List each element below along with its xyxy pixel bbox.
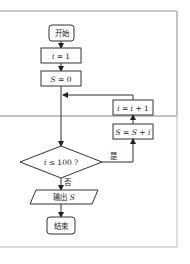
end-label: 结束 bbox=[54, 221, 69, 231]
update-i-node: i = i + 1 bbox=[113, 100, 153, 115]
no-label: 否 bbox=[64, 178, 72, 187]
condition-val: 100 ? bbox=[57, 158, 78, 167]
end-node: 结束 bbox=[47, 217, 75, 234]
init-s-op: = bbox=[56, 75, 67, 84]
update-s-node: S = S + i bbox=[113, 124, 153, 139]
update-s-op: = bbox=[121, 128, 132, 137]
svg-text:i ≤ 100 ?: i ≤ 100 ? bbox=[44, 158, 78, 167]
svg-text:i = 1: i = 1 bbox=[52, 52, 70, 61]
update-i-op: = bbox=[120, 104, 131, 113]
start-label: 开始 bbox=[55, 28, 70, 38]
svg-text:S = 0: S = 0 bbox=[51, 75, 72, 84]
start-node: 开始 bbox=[49, 25, 74, 41]
svg-text:S = S + i: S = S + i bbox=[116, 128, 151, 137]
init-s-node: S = 0 bbox=[41, 71, 81, 86]
init-s-val: 0 bbox=[67, 75, 72, 84]
yes-label: 是 bbox=[110, 152, 118, 161]
arrow-loop-back bbox=[63, 95, 133, 100]
init-i-val: 1 bbox=[65, 52, 70, 61]
output-text: 输出 bbox=[53, 192, 69, 202]
svg-text:i = i + 1: i = i + 1 bbox=[117, 104, 149, 113]
output-node: 输出 S bbox=[30, 190, 98, 204]
output-var: S bbox=[70, 193, 75, 202]
update-s-plus: + bbox=[137, 128, 148, 137]
flowchart-diagram: 开始 i = 1 S = 0 i = i + 1 S = S + i bbox=[0, 0, 190, 264]
condition-op: ≤ bbox=[46, 158, 57, 167]
init-i-node: i = 1 bbox=[41, 48, 81, 63]
arrow-yes bbox=[102, 139, 133, 162]
update-i-rhs-rest: + 1 bbox=[133, 104, 149, 113]
decision-node: i ≤ 100 ? bbox=[20, 146, 102, 178]
svg-text:输出 S: 输出 S bbox=[53, 192, 75, 202]
init-i-op: = bbox=[54, 52, 65, 61]
